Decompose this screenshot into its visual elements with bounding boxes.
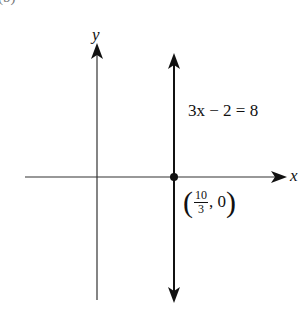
point-open-paren: ( bbox=[183, 187, 193, 217]
point-label: ( 10 3 , 0 ) bbox=[183, 187, 236, 217]
y-axis-label: y bbox=[92, 25, 100, 45]
fraction-numerator: 10 bbox=[194, 189, 208, 203]
point-rest: , 0 bbox=[209, 192, 226, 212]
x-axis-label: x bbox=[290, 166, 298, 186]
point-close-paren: ) bbox=[226, 187, 236, 217]
equation-label: 3x − 2 = 8 bbox=[188, 101, 258, 121]
graph bbox=[0, 0, 306, 316]
x-intercept-point bbox=[170, 173, 178, 181]
point-fraction: 10 3 bbox=[194, 189, 208, 215]
fraction-denominator: 3 bbox=[198, 203, 204, 216]
